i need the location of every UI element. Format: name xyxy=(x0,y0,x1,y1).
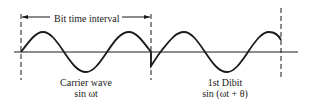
dibit-formula: sin (ωt + θ) xyxy=(190,88,260,99)
carrier-formula: sin ωt xyxy=(56,88,116,99)
phase-shift-diagram xyxy=(0,0,311,105)
carrier-title: Carrier wave xyxy=(56,77,116,88)
bit-time-interval-label: Bit time interval xyxy=(52,13,122,24)
dibit-title: 1st Dibit xyxy=(190,77,260,88)
arrowhead-left-icon xyxy=(22,15,28,19)
arrowhead-right-icon xyxy=(144,15,150,19)
